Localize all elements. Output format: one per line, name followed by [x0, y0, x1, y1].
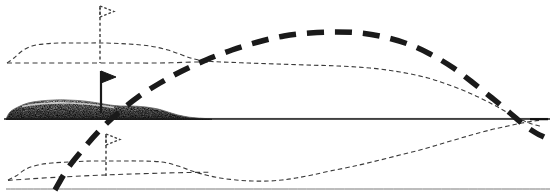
diagram-canvas	[0, 0, 550, 192]
figure-container	[0, 0, 550, 192]
canvas-background	[0, 0, 550, 192]
